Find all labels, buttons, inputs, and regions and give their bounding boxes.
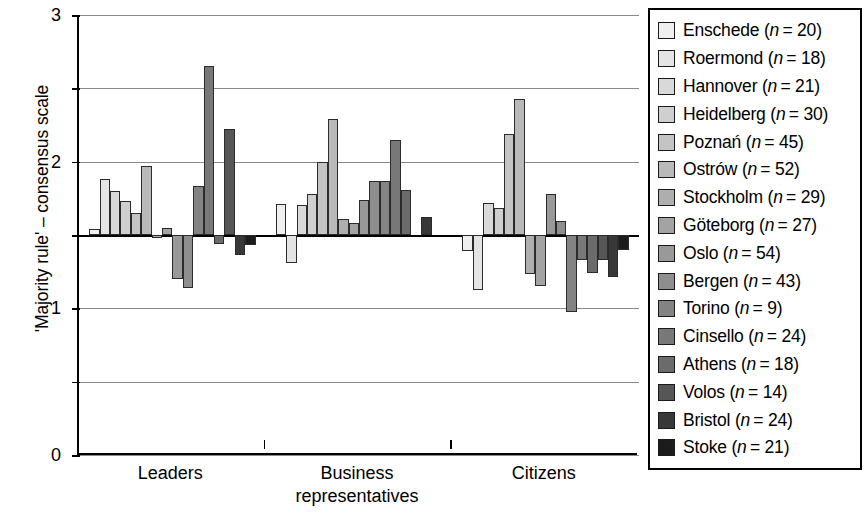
- legend-item-label: Athens (n = 18): [683, 354, 799, 375]
- bar: [204, 66, 214, 235]
- y-axis-tick: 3: [72, 15, 80, 17]
- bar: [421, 217, 431, 235]
- y-axis-tick: −2: [72, 382, 80, 384]
- legend-item: Torino (n = 9): [658, 295, 860, 323]
- legend-item: Heidelberg (n = 30): [658, 100, 860, 128]
- bar: [349, 223, 359, 235]
- plot-area: 3210−1−2−3: [77, 15, 637, 455]
- chart-figure: 'Majority rule' – consensus scale 3210−1…: [0, 0, 866, 513]
- legend-item-label: Bergen (n = 43): [683, 271, 801, 292]
- gridline: [79, 455, 639, 456]
- legend-item-label: Volos (n = 14): [683, 382, 787, 403]
- legend-swatch-icon: [658, 50, 675, 67]
- gridline: [79, 162, 639, 163]
- legend-item-label: Stoke (n = 21): [683, 437, 789, 458]
- bar: [110, 191, 120, 235]
- bar: [577, 235, 587, 260]
- legend-item: Ostrów (n = 52): [658, 156, 860, 184]
- bar: [338, 219, 348, 235]
- bar: [317, 162, 327, 235]
- bar: [359, 200, 369, 235]
- bar: [276, 204, 286, 235]
- bar: [224, 129, 234, 235]
- legend-swatch-icon: [658, 412, 675, 429]
- bar: [297, 205, 307, 235]
- gridline: [79, 308, 639, 309]
- bar: [546, 194, 556, 235]
- bar: [286, 235, 296, 263]
- bar: [598, 235, 608, 260]
- bar: [152, 235, 162, 238]
- legend-swatch-icon: [658, 328, 675, 345]
- legend-item-label: Enschede (n = 20): [683, 20, 822, 41]
- bar: [380, 181, 390, 235]
- legend-swatch-icon: [658, 439, 675, 456]
- legend-swatch-icon: [658, 134, 675, 151]
- bar: [245, 235, 255, 245]
- x-axis-category-label: Businessrepresentatives: [264, 462, 451, 508]
- zero-line: [79, 235, 639, 237]
- legend-swatch-icon: [658, 273, 675, 290]
- legend-item-label: Bristol (n = 24): [683, 410, 793, 431]
- legend-item-label: Ostrów (n = 52): [683, 159, 800, 180]
- bar: [483, 203, 493, 235]
- legend-swatch-icon: [658, 22, 675, 39]
- legend-item-label: Oslo (n = 54): [683, 243, 781, 264]
- legend-item: Göteborg (n = 27): [658, 212, 860, 240]
- legend-swatch-icon: [658, 78, 675, 95]
- legend-swatch-icon: [658, 245, 675, 262]
- bar: [556, 221, 566, 235]
- legend-item: Enschede (n = 20): [658, 17, 860, 45]
- bar: [618, 235, 628, 250]
- bar: [193, 186, 203, 235]
- x-axis-category-label: Citizens: [450, 462, 637, 485]
- legend-item-label: Cinsello (n = 24): [683, 326, 806, 347]
- legend-item: Oslo (n = 54): [658, 239, 860, 267]
- legend-item: Volos (n = 14): [658, 378, 860, 406]
- bar: [504, 134, 514, 235]
- y-axis-tick-label: 3: [51, 5, 61, 26]
- y-axis-tick: 1: [72, 162, 80, 164]
- bar: [401, 190, 411, 235]
- legend-item: Roermond (n = 18): [658, 45, 860, 73]
- bar: [214, 235, 224, 244]
- x-axis-label-line: Business: [264, 462, 451, 485]
- bar: [172, 235, 182, 279]
- bar: [141, 166, 151, 235]
- legend-swatch-icon: [658, 189, 675, 206]
- gridline: [79, 88, 639, 89]
- legend-item: Stockholm (n = 29): [658, 184, 860, 212]
- legend-item: Poznań (n = 45): [658, 128, 860, 156]
- legend-swatch-icon: [658, 384, 675, 401]
- bar: [390, 140, 400, 235]
- legend-item: Stoke (n = 21): [658, 434, 860, 462]
- bar: [462, 235, 472, 251]
- x-axis-category-label: Leaders: [77, 462, 264, 485]
- legend-swatch-icon: [658, 161, 675, 178]
- bar: [89, 229, 99, 235]
- bar: [535, 235, 545, 286]
- legend-item: Bergen (n = 43): [658, 267, 860, 295]
- bar: [162, 228, 172, 235]
- legend-item: Bristol (n = 24): [658, 406, 860, 434]
- legend-item: Cinsello (n = 24): [658, 323, 860, 351]
- bar: [525, 235, 535, 274]
- bar: [183, 235, 193, 288]
- bar: [100, 179, 110, 235]
- x-axis-label-line: representatives: [264, 485, 451, 508]
- legend-swatch-icon: [658, 300, 675, 317]
- gridline: [79, 15, 639, 16]
- bar: [566, 235, 576, 312]
- y-axis-tick: 2: [72, 88, 80, 90]
- legend-item: Athens (n = 18): [658, 351, 860, 379]
- legend-item-label: Poznań (n = 45): [683, 132, 804, 153]
- y-axis-tick: −3: [72, 455, 80, 457]
- bar: [473, 235, 483, 290]
- x-axis-label-line: Leaders: [77, 462, 264, 485]
- chart-legend: Enschede (n = 20)Roermond (n = 18)Hannov…: [648, 8, 862, 470]
- legend-swatch-icon: [658, 106, 675, 123]
- bar: [120, 201, 130, 235]
- bar: [369, 181, 379, 235]
- x-axis-label-line: Citizens: [450, 462, 637, 485]
- legend-item-label: Heidelberg (n = 30): [683, 104, 828, 125]
